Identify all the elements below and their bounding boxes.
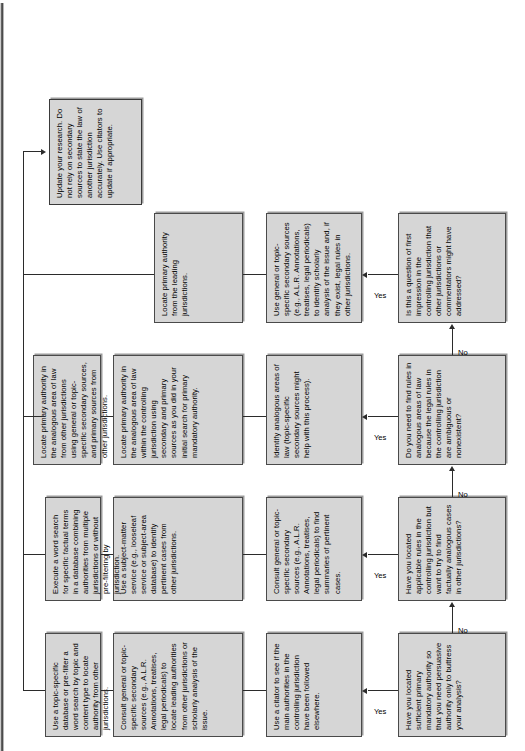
connector-d4-yes	[368, 274, 398, 275]
connector-d3-yes	[368, 416, 398, 417]
edge-label-yes-1: Yes	[374, 707, 386, 716]
connector-d2-yes	[368, 554, 398, 555]
arrow-d2-yes	[362, 552, 367, 558]
connector-2a-2b	[243, 554, 266, 555]
step-node-4b[interactable]: Locate primary authority from the leadin…	[154, 213, 243, 323]
connector-3a-3b	[243, 416, 266, 417]
flowchart-canvas: Have you located sufficient primary mand…	[0, 0, 525, 751]
step-node-2c[interactable]: Execute a word search for specific factu…	[45, 497, 101, 601]
connector-d3-no	[452, 329, 453, 355]
arrow-d1-yes	[362, 688, 367, 694]
step-node-2b[interactable]: Use a subject-matter service (e.g., loos…	[113, 497, 243, 601]
step-node-1a[interactable]: Use a citator to see if the main authori…	[266, 633, 362, 737]
bus-drop-2	[23, 554, 45, 555]
bus-drop-4	[23, 274, 154, 275]
step-node-3c[interactable]: Locate primary authority in the analogou…	[33, 355, 101, 465]
rotated-diagram-wrapper: Have you located sufficient primary mand…	[0, 0, 525, 751]
edge-label-no-2: No	[458, 490, 468, 499]
connector-d1-yes	[368, 690, 398, 691]
arrow-d1-no	[449, 602, 455, 607]
connector-1b-1c	[101, 690, 113, 691]
arrow-d3-no	[449, 324, 455, 329]
arrow-d2-no	[449, 466, 455, 471]
arrow-to-final	[41, 149, 46, 155]
edge-label-yes-2: Yes	[374, 571, 386, 580]
bus-drop-1	[23, 690, 45, 691]
step-node-3b[interactable]: Locate primary authority in the analogou…	[113, 355, 243, 465]
edge-label-yes-3: Yes	[374, 433, 386, 442]
decision-node-2[interactable]: Have you located applicable rules in the…	[398, 497, 506, 601]
decision-node-1[interactable]: Have you located sufficient primary mand…	[398, 633, 506, 737]
decision-node-4[interactable]: Is this a question of first impression i…	[398, 213, 506, 323]
edge-label-no-3: No	[458, 348, 468, 357]
edge-label-no-1: No	[458, 626, 468, 635]
step-node-1c[interactable]: Use a topic-specific database or pre-fil…	[45, 633, 101, 737]
connector-4a-4b	[243, 274, 266, 275]
edge-label-yes-4: Yes	[374, 291, 386, 300]
final-node[interactable]: Update your research. Do not rely on sec…	[49, 99, 142, 205]
connector-2b-2c	[101, 554, 113, 555]
decision-node-3[interactable]: Do you need to find rules in analogous a…	[398, 355, 506, 465]
connector-3b-3c	[101, 416, 113, 417]
arrow-d4-yes	[362, 272, 367, 278]
step-node-4a[interactable]: Use general or topic-specific secondary …	[266, 213, 362, 323]
arrow-d3-yes	[362, 414, 367, 420]
connector-1a-1b	[243, 690, 266, 691]
bus-to-final	[23, 151, 43, 152]
bus-line-top	[23, 151, 24, 691]
step-node-3a[interactable]: Identify analogous areas of law (topic-s…	[266, 355, 362, 465]
connector-d2-no	[452, 471, 453, 497]
step-node-1b[interactable]: Consult general or topic-specific second…	[113, 633, 243, 737]
step-node-2a[interactable]: Consult general or topic-specific second…	[266, 497, 362, 601]
bus-drop-3	[23, 416, 45, 417]
connector-d1-no	[452, 607, 453, 633]
